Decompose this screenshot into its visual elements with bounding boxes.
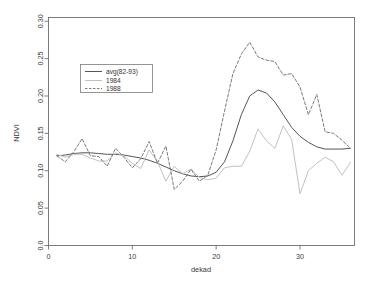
y-tick-label: 0.30 <box>36 14 45 28</box>
x-tick-label: 20 <box>212 252 220 261</box>
legend-label-1984: 1984 <box>106 77 121 84</box>
y-tick-label: 0.25 <box>36 52 45 66</box>
chart-canvas: 0.00.050.100.150.200.250.30 0102030 deka… <box>0 0 375 286</box>
legend-label-1988: 1988 <box>106 85 121 92</box>
y-axis: 0.00.050.100.150.200.250.30 <box>36 14 48 250</box>
chart-legend: avg(82-93) 1984 1988 <box>81 65 153 93</box>
y-tick-label: 0.10 <box>36 164 45 178</box>
plot-frame <box>49 18 355 246</box>
y-tick-label: 0.15 <box>36 126 45 140</box>
y-tick-label: 0.0 <box>36 241 45 251</box>
x-tick-label: 30 <box>296 252 304 261</box>
series-line-avg <box>57 90 350 177</box>
legend-label-avg: avg(82-93) <box>106 68 138 76</box>
x-axis: 0102030 <box>47 246 305 261</box>
y-axis-title: NDVI <box>12 124 21 142</box>
x-tick-label: 0 <box>47 252 51 261</box>
y-tick-label: 0.05 <box>36 201 45 215</box>
ndvi-chart-figure: 0.00.050.100.150.200.250.30 0102030 deka… <box>0 0 375 286</box>
series-line-1984 <box>57 126 350 194</box>
x-axis-title: dekad <box>191 265 211 274</box>
y-tick-label: 0.20 <box>36 89 45 103</box>
x-tick-label: 10 <box>128 252 136 261</box>
